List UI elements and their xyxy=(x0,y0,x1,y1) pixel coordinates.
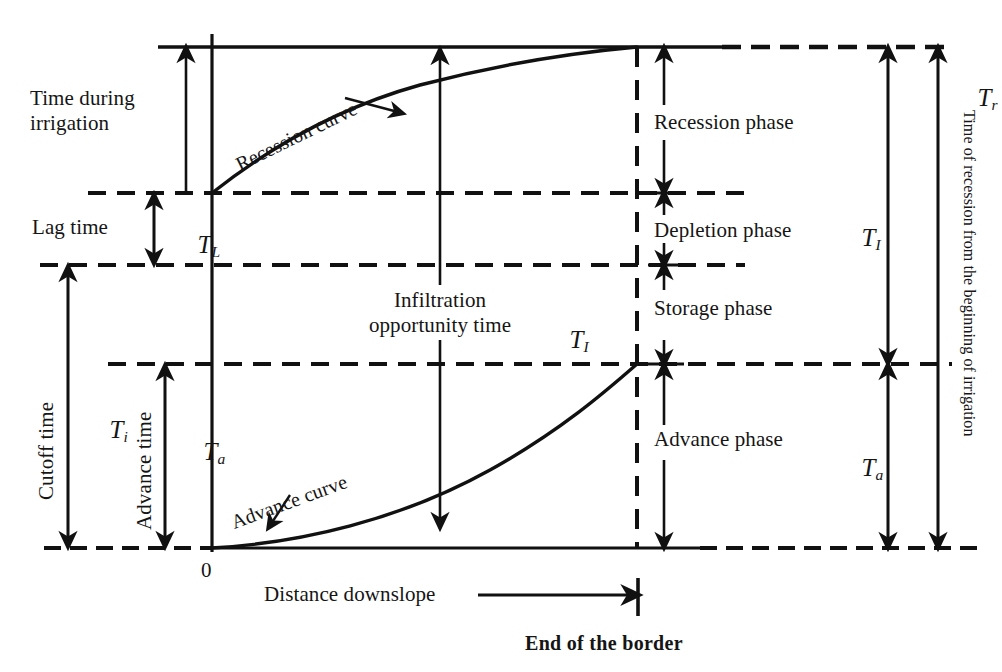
recession-phase-label: Recession phase xyxy=(654,110,794,135)
x-axis-label: Distance downslope xyxy=(264,582,436,607)
infiltration-opportunity-time-label: Infiltration opportunity time xyxy=(302,288,578,338)
depletion-phase-label: Depletion phase xyxy=(654,218,791,243)
lag-time-label: Lag time xyxy=(32,215,108,240)
end-of-border-title: End of the border xyxy=(525,632,683,656)
figure-canvas: Time during irrigation Lag time TL Cutof… xyxy=(0,0,1002,672)
symbol-T-i: Ti xyxy=(88,390,128,471)
time-of-recession-label: Time of recession from the beginning of … xyxy=(959,110,978,437)
symbol-T-L: TL xyxy=(176,205,220,286)
recession-curve-path xyxy=(212,47,637,193)
symbol-T-a-left: Ta xyxy=(182,412,225,493)
advance-phase-label: Advance phase xyxy=(654,427,783,452)
time-during-irrigation-label: Time during irrigation xyxy=(30,86,180,136)
storage-phase-label: Storage phase xyxy=(654,296,773,321)
symbol-T-a-right: Ta xyxy=(840,428,883,509)
symbol-T-I-center: TI xyxy=(548,300,589,381)
origin-label: 0 xyxy=(201,558,212,583)
advance-curve-path xyxy=(212,364,637,548)
symbol-T-I-right: TI xyxy=(840,198,881,279)
advance-time-label: Advance time xyxy=(132,412,157,530)
cutoff-time-label: Cutoff time xyxy=(34,402,59,500)
